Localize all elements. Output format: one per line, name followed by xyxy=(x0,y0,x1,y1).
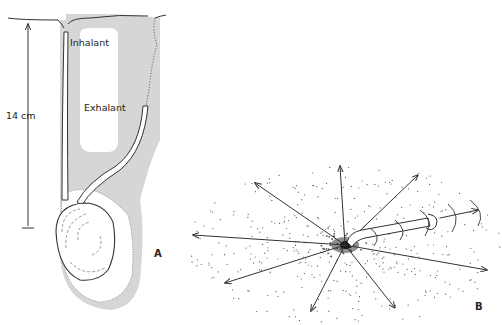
diagram-svg xyxy=(0,0,502,325)
exhalant-label: Exhalant xyxy=(84,102,126,113)
panel-b-label: B xyxy=(475,301,483,312)
figure-canvas: Inhalant Exhalant 14 cm A B xyxy=(0,0,502,325)
inhalant-label: Inhalant xyxy=(70,37,109,48)
scale-label: 14 cm xyxy=(6,110,36,121)
panel-a-label: A xyxy=(154,248,162,259)
panel-b-currents xyxy=(191,166,500,323)
panel-a-burrow xyxy=(8,14,166,310)
